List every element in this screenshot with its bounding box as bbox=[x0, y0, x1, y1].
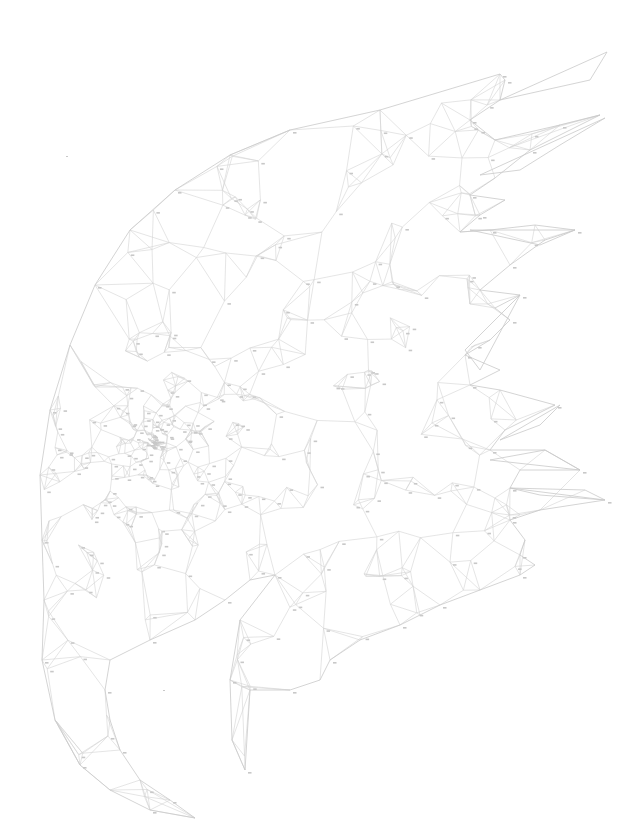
region-number-mark bbox=[383, 384, 387, 386]
region-number-mark bbox=[156, 422, 160, 424]
region-number-mark bbox=[141, 477, 145, 479]
region-number-mark bbox=[262, 373, 266, 375]
region-number-mark bbox=[220, 399, 224, 401]
region-number-mark bbox=[126, 524, 130, 526]
region-number-mark bbox=[45, 662, 49, 664]
region-number-mark bbox=[156, 212, 160, 214]
region-number-mark bbox=[262, 573, 266, 575]
region-number-mark bbox=[133, 426, 137, 428]
region-number-mark bbox=[139, 516, 143, 518]
region-number-mark bbox=[201, 483, 205, 485]
region-number-mark bbox=[248, 217, 252, 219]
region-number-mark bbox=[179, 449, 183, 451]
region-number-mark bbox=[493, 452, 497, 454]
region-number-mark bbox=[162, 555, 166, 557]
region-number-mark bbox=[133, 469, 137, 471]
region-number-mark bbox=[203, 404, 207, 406]
region-number-mark bbox=[474, 562, 478, 564]
region-number-mark bbox=[238, 199, 242, 201]
region-number-mark bbox=[333, 662, 337, 664]
region-number-mark bbox=[147, 413, 151, 415]
region-number-mark bbox=[287, 238, 291, 240]
region-number-mark bbox=[131, 254, 135, 256]
region-number-mark bbox=[85, 467, 89, 469]
region-number-mark bbox=[233, 682, 237, 684]
region-number-mark bbox=[435, 425, 439, 427]
region-number-mark bbox=[125, 389, 129, 391]
region-number-mark bbox=[52, 469, 56, 471]
region-number-mark bbox=[371, 341, 375, 343]
region-number-mark bbox=[167, 354, 171, 356]
region-number-mark bbox=[96, 572, 100, 574]
region-number-mark bbox=[385, 156, 389, 158]
region-number-mark bbox=[130, 526, 134, 528]
region-number-mark bbox=[494, 421, 498, 423]
region-number-mark bbox=[355, 304, 359, 306]
region-number-mark bbox=[56, 566, 60, 568]
region-number-mark bbox=[47, 492, 51, 494]
region-number-mark bbox=[208, 428, 212, 430]
region-number-mark bbox=[380, 539, 384, 541]
region-number-mark bbox=[282, 459, 286, 461]
region-number-mark bbox=[535, 136, 539, 138]
region-number-mark bbox=[608, 502, 612, 504]
region-number-mark bbox=[58, 450, 62, 452]
region-number-mark bbox=[245, 506, 249, 508]
region-number-mark bbox=[134, 424, 138, 426]
region-number-mark bbox=[153, 642, 157, 644]
region-number-mark bbox=[293, 132, 297, 134]
region-number-mark bbox=[503, 76, 507, 78]
region-number-mark bbox=[403, 627, 407, 629]
region-number-mark bbox=[95, 517, 99, 519]
region-number-mark bbox=[491, 160, 495, 162]
region-number-mark bbox=[487, 533, 491, 535]
region-number-mark bbox=[327, 569, 331, 571]
region-number-mark bbox=[277, 638, 281, 640]
region-number-mark bbox=[248, 772, 252, 774]
region-number-mark bbox=[377, 500, 381, 502]
region-number-mark bbox=[113, 493, 117, 495]
region-number-mark bbox=[220, 168, 224, 170]
region-number-mark bbox=[478, 218, 482, 220]
region-number-mark bbox=[81, 547, 85, 549]
region-number-mark bbox=[227, 384, 231, 386]
region-number-mark bbox=[425, 297, 429, 299]
region-number-mark bbox=[278, 577, 282, 579]
region-number-mark bbox=[155, 336, 159, 338]
region-number-mark bbox=[327, 630, 331, 632]
region-number-mark bbox=[409, 350, 413, 352]
eagle-artwork bbox=[0, 0, 642, 831]
region-number-mark bbox=[195, 516, 199, 518]
region-number-mark bbox=[366, 511, 370, 513]
region-number-mark bbox=[513, 490, 517, 492]
region-number-mark bbox=[317, 282, 321, 284]
region-number-mark bbox=[413, 329, 417, 331]
region-number-mark bbox=[440, 402, 444, 404]
region-number-mark bbox=[293, 692, 297, 694]
region-number-mark bbox=[229, 478, 233, 480]
region-number-mark bbox=[381, 472, 385, 474]
region-number-mark bbox=[280, 416, 284, 418]
region-number-mark bbox=[207, 473, 211, 475]
region-number-mark bbox=[167, 424, 171, 426]
region-number-mark bbox=[155, 439, 159, 441]
region-number-mark bbox=[194, 432, 198, 434]
region-number-mark bbox=[113, 505, 117, 507]
region-number-mark bbox=[263, 202, 267, 204]
region-number-mark bbox=[143, 449, 147, 451]
region-number-mark bbox=[357, 507, 361, 509]
region-number-mark bbox=[409, 137, 413, 139]
region-number-mark bbox=[144, 426, 148, 428]
region-number-mark bbox=[152, 445, 156, 447]
region-number-mark bbox=[70, 452, 74, 454]
region-number-mark bbox=[279, 247, 283, 249]
region-number-mark bbox=[188, 380, 192, 382]
region-number-mark bbox=[518, 568, 522, 570]
region-number-mark bbox=[247, 639, 251, 641]
region-number-mark bbox=[160, 429, 164, 431]
region-number-mark bbox=[306, 595, 310, 597]
region-number-mark bbox=[156, 430, 160, 432]
region-number-mark bbox=[178, 192, 182, 194]
region-number-mark bbox=[286, 366, 290, 368]
region-number-mark bbox=[443, 607, 447, 609]
